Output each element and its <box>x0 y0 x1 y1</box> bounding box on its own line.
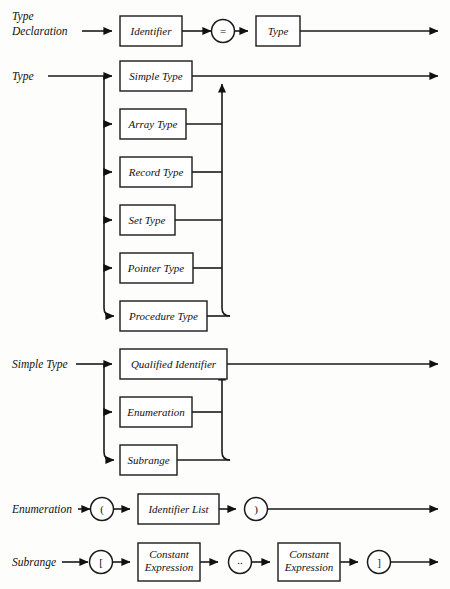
production-type-declaration: Type Declaration Identifier = Type <box>11 10 438 46</box>
circle-close-paren-label: ) <box>254 503 258 516</box>
production-label-subrange: Subrange <box>12 556 56 569</box>
syntax-diagram-canvas: Type Declaration Identifier = Type Type … <box>0 0 450 589</box>
box-type-label: Type <box>268 25 289 37</box>
box-record-type-label: Record Type <box>128 166 184 178</box>
box-constant-expression-1-line-2: Expression <box>144 561 194 573</box>
box-constant-expression-1-line-1: Constant <box>149 548 190 560</box>
box-constant-expression-2-line-1: Constant <box>289 548 330 560</box>
box-identifier-label: Identifier <box>130 25 173 37</box>
box-subrange-label: Subrange <box>127 454 169 466</box>
circle-open-bracket-label: [ <box>99 556 103 568</box>
production-label-simple-type: Simple Type <box>12 358 68 371</box>
box-set-type-label: Set Type <box>129 214 166 226</box>
bus-right-type-merge <box>222 84 230 316</box>
box-qualified-identifier-label: Qualified Identifier <box>131 358 217 370</box>
production-label-type: Type <box>12 70 34 83</box>
production-type: Type Simple Type Array Type Record Type … <box>12 61 438 331</box>
circle-equals-label: = <box>220 25 226 37</box>
circle-dotdot-label: .. <box>237 554 243 566</box>
syntax-diagram-root: Type Declaration Identifier = Type Type … <box>0 0 450 589</box>
production-subrange: Subrange [ Constant Expression .. Consta… <box>12 543 438 581</box>
production-simple-type: Simple Type Qualified Identifier Enumera… <box>12 349 438 475</box>
box-identifier-list-label: Identifier List <box>147 503 209 515</box>
box-procedure-type-label: Procedure Type <box>128 310 198 322</box>
production-enumeration: Enumeration ( Identifier List ) <box>11 494 438 524</box>
circle-open-paren-label: ( <box>100 503 104 516</box>
box-enumeration-label: Enumeration <box>126 406 185 418</box>
production-label-line-1: Type <box>12 10 34 23</box>
box-array-type-label: Array Type <box>128 118 178 130</box>
production-label-enumeration: Enumeration <box>11 503 72 515</box>
production-label-line-2: Declaration <box>11 25 68 37</box>
bus-right-simple-type-merge <box>222 372 230 460</box>
box-simple-type-label: Simple Type <box>129 70 182 82</box>
circle-close-bracket-label: ] <box>377 556 381 568</box>
box-constant-expression-2-line-2: Expression <box>284 561 334 573</box>
box-pointer-type-label: Pointer Type <box>127 262 184 274</box>
bus-left-type <box>104 76 112 316</box>
